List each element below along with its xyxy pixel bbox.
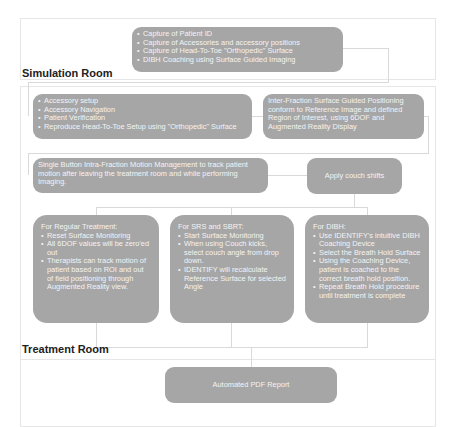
connector-couch-down [354, 194, 355, 207]
intra-fraction-box: Single Button Intra-Fraction Motion Mana… [33, 158, 268, 193]
connector-capture-to-setup-h [340, 48, 388, 49]
dibh-box: For DIBH: Use IDENTIFY's intuitive DIBH … [305, 215, 429, 323]
connector-capture-to-setup-v2 [28, 82, 29, 116]
connector-dibh-down [367, 323, 368, 347]
connector-loop-h [28, 153, 429, 154]
treatment-room-label: Treatment Room [22, 343, 109, 355]
automated-pdf-report-box: Automated PDF Report [165, 367, 337, 403]
inter-fraction-text: Inter-Fraction Surface Guided Positionin… [268, 96, 404, 131]
automated-pdf-report-text: Automated PDF Report [213, 381, 290, 390]
setup-box: Accessory setup Accessory Navigation Pat… [33, 94, 252, 139]
regular-item: All 6DOF values will be zero'ed out [41, 240, 151, 257]
apply-couch-shifts-text: Apply couch shifts [325, 172, 385, 181]
connector-interfraction-down [428, 116, 429, 154]
dibh-item: Repeat Breath Hold procedure until treat… [313, 283, 421, 300]
connector-capture-to-setup-v [388, 48, 389, 82]
inter-fraction-box: Inter-Fraction Surface Guided Positionin… [263, 94, 424, 139]
connector-branch-dibh [367, 207, 368, 215]
connector-branch-regular [96, 207, 97, 215]
capture-item: DIBH Coaching using Surface Guided Imagi… [137, 56, 338, 65]
regular-item: Therapists can track motion of patient b… [41, 257, 151, 291]
srs-sbrt-box: For SRS and SBRT: Start Surface Monitori… [170, 215, 294, 323]
connector-intra-to-couch [266, 175, 308, 176]
simulation-room-label: Simulation Room [22, 67, 112, 79]
connector-capture-to-setup-h2 [28, 82, 389, 83]
dibh-item: Use IDENTIFY's intuitive DIBH Coaching D… [313, 232, 421, 249]
regular-treatment-box: For Regular Treatment: Reset Surface Mon… [33, 215, 159, 323]
srs-item: When using Couch kicks, select couch ang… [178, 240, 286, 266]
setup-item: Reproduce Head-To-Toe Setup using "Ortho… [38, 123, 247, 132]
connector-srs-down [231, 323, 232, 347]
connector-merge-h [96, 347, 368, 348]
srs-item: IDENTIFY will recalculate Reference Surf… [178, 266, 286, 292]
apply-couch-shifts-box: Apply couch shifts [307, 158, 402, 194]
intra-fraction-text: Single Button Intra-Fraction Motion Mana… [38, 160, 248, 186]
dibh-item: Using the Coaching Device, patient is co… [313, 257, 421, 283]
connector-merge-down [251, 347, 252, 367]
simulation-capture-box: Capture of Patient ID Capture of Accesso… [132, 27, 343, 72]
connector-loop-v [28, 153, 29, 175]
connector-branch-h [96, 207, 368, 208]
connector-branch-srs [231, 207, 232, 215]
